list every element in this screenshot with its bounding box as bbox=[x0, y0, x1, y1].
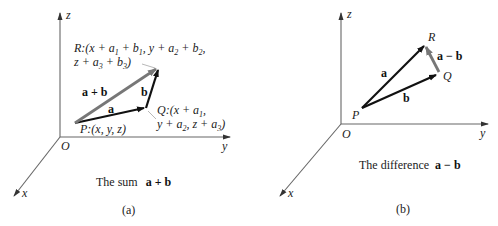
panel-a: z y x O a + b a b R:(x + a1 + b1, y + a2… bbox=[14, 8, 230, 217]
vector-diagram: z y x O a + b a b R:(x + a1 + b1, y + a2… bbox=[0, 0, 498, 226]
x-axis-label: x bbox=[287, 186, 294, 200]
panel-a-label: (a) bbox=[122, 203, 135, 217]
y-axis-label: y bbox=[479, 126, 486, 140]
z-axis-label: z bbox=[65, 8, 71, 22]
vector-a-label: a bbox=[381, 66, 387, 80]
q-leader bbox=[148, 111, 156, 119]
point-p-label: P bbox=[351, 108, 360, 122]
vector-diff-label: a − b bbox=[437, 49, 463, 63]
caption-a: The suma + b bbox=[96, 175, 172, 189]
vector-sum-label: a + b bbox=[82, 85, 108, 99]
origin-label: O bbox=[61, 139, 70, 153]
point-q-label-line2: y + a2, z + a3) bbox=[156, 117, 225, 133]
x-axis-label: x bbox=[21, 186, 28, 200]
y-axis-label: y bbox=[221, 139, 228, 153]
vector-a bbox=[362, 46, 424, 108]
vector-b bbox=[362, 75, 436, 108]
vector-a-label: a bbox=[108, 102, 114, 116]
point-r-label-line2: z + a3 + b3) bbox=[73, 55, 131, 71]
z-axis-label: z bbox=[346, 7, 352, 21]
point-p-label: P:(x, y, z) bbox=[79, 122, 126, 136]
r-leader bbox=[142, 64, 155, 68]
x-axis bbox=[14, 137, 60, 196]
vector-b-label: b bbox=[403, 91, 410, 105]
caption-b: The differencea − b bbox=[359, 158, 461, 172]
panel-b: z y x O a b a − b R Q P The differencea … bbox=[280, 7, 488, 216]
vector-b-label: b bbox=[141, 85, 148, 99]
panel-b-label: (b) bbox=[396, 202, 410, 216]
point-q-label: Q bbox=[443, 69, 452, 83]
origin-label: O bbox=[342, 127, 351, 141]
point-r-label: R bbox=[427, 30, 436, 44]
